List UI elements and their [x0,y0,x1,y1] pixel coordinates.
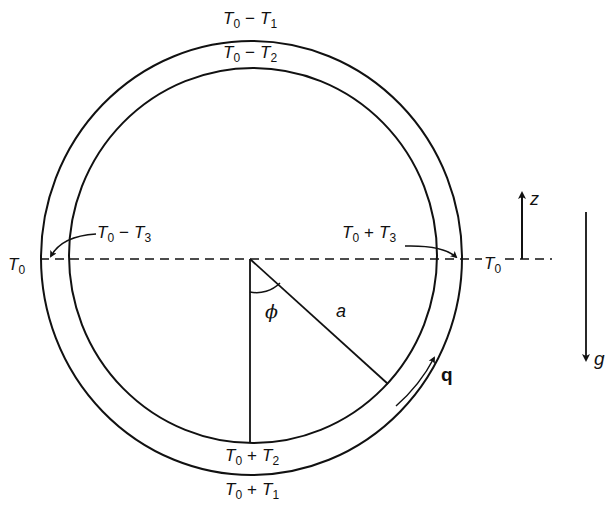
label-angle-phi: ϕ [265,302,278,320]
outer-loop-wall [41,41,462,475]
label-right-side-temperature: T0+T3 [342,224,396,242]
label-top-outer-temperature: T0−T1 [223,10,277,28]
label-gravity-g: g [594,350,605,368]
left-pointer-arrow [51,234,96,256]
label-top-inner-temperature: T0−T2 [223,44,277,62]
thermosyphon-diagram [0,0,614,520]
label-left-side-temperature: T0−T3 [97,224,151,242]
right-pointer-arrow [405,246,456,257]
label-radius-a: a [336,302,346,320]
label-right-T0: T0 [482,255,503,273]
inner-loop-wall [69,68,437,443]
label-bottom-inner-temperature: T0+T2 [225,447,279,465]
label-left-T0: T0 [8,256,25,274]
label-z-axis: z [530,190,539,208]
angle-phi-arc [250,283,280,293]
label-bottom-outer-temperature: T0+T1 [225,481,279,499]
label-flow-q: q [441,366,453,384]
